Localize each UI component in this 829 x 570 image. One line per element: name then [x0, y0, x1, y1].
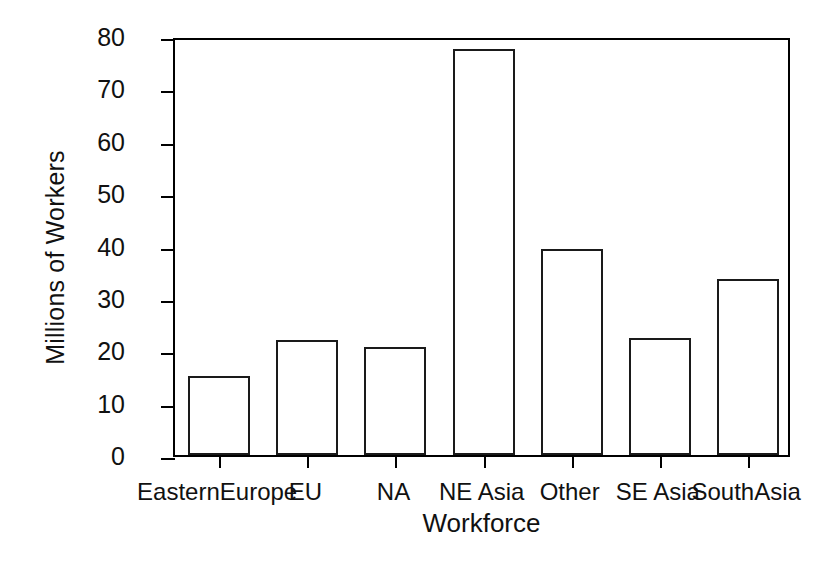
y-tick-label: 80: [67, 25, 125, 50]
plot-area: [173, 38, 790, 457]
x-axis-title: Workforce: [173, 508, 790, 539]
y-tick-label: 50: [67, 182, 125, 207]
y-tick-mark: [161, 301, 175, 303]
y-tick-mark: [161, 353, 175, 355]
y-tick-mark: [161, 91, 175, 93]
x-tick-label: EasternEurope: [137, 478, 297, 506]
x-tick-label: SouthAsia: [691, 478, 800, 506]
x-tick-mark: [219, 455, 221, 468]
y-tick-mark: [161, 249, 175, 251]
bar: [276, 340, 338, 455]
x-tick-mark: [748, 455, 750, 468]
y-tick-label: 20: [67, 339, 125, 364]
y-tick-mark: [161, 144, 175, 146]
x-tick-label: SE Asia: [616, 478, 700, 506]
y-tick-label: 30: [67, 287, 125, 312]
bar: [541, 249, 603, 455]
bar: [717, 279, 779, 456]
bar: [453, 49, 515, 455]
bar-chart-figure: Millions of Workers 01020304050607080 Ea…: [0, 0, 829, 570]
x-axis-tick-labels: EasternEuropeEUNANE AsiaOtherSE AsiaSout…: [173, 478, 790, 510]
x-tick-mark: [572, 455, 574, 468]
y-axis-tick-labels: 01020304050607080: [67, 0, 125, 570]
x-tick-label: EU: [289, 478, 322, 506]
y-axis-title: Millions of Workers: [41, 108, 70, 408]
y-tick-label: 0: [67, 444, 125, 469]
bar: [364, 347, 426, 455]
x-tick-label: NE Asia: [439, 478, 524, 506]
y-tick-label: 10: [67, 392, 125, 417]
y-tick-mark: [161, 196, 175, 198]
x-tick-mark: [660, 455, 662, 468]
y-tick-mark: [161, 39, 175, 41]
y-tick-label: 40: [67, 235, 125, 260]
x-tick-mark: [484, 455, 486, 468]
bar: [188, 376, 250, 455]
y-tick-label: 70: [67, 77, 125, 102]
x-tick-label: Other: [540, 478, 600, 506]
x-tick-mark: [307, 455, 309, 468]
y-tick-mark: [161, 406, 175, 408]
y-tick-mark: [161, 458, 175, 460]
bar: [629, 338, 691, 455]
x-tick-mark: [395, 455, 397, 468]
x-tick-label: NA: [377, 478, 410, 506]
y-tick-label: 60: [67, 130, 125, 155]
